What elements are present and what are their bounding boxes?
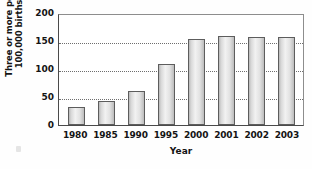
bar-2000[interactable] <box>188 39 205 125</box>
x-tick-2000: 2000 <box>181 129 211 143</box>
y-axis-title: Three or more per 100,000 births <box>0 0 29 89</box>
y-tick-0: 0 <box>28 121 54 130</box>
bar-2003[interactable] <box>278 37 295 125</box>
y-axis-title-line-1: Three or more per <box>4 0 15 77</box>
bar-1980[interactable] <box>68 107 85 125</box>
x-axis-ticks: 19801985199019952000200120022003 <box>58 129 304 143</box>
y-tick-100: 100 <box>28 65 54 74</box>
x-tick-2002: 2002 <box>242 129 272 143</box>
bar-1995[interactable] <box>158 64 175 125</box>
x-tick-1985: 1985 <box>90 129 120 143</box>
bar-slot <box>241 15 271 125</box>
scan-artifact-mark <box>16 146 21 152</box>
bar-1990[interactable] <box>128 91 145 125</box>
bar-slot <box>151 15 181 125</box>
x-tick-1980: 1980 <box>60 129 90 143</box>
bar-slot <box>211 15 241 125</box>
x-tick-2003: 2003 <box>272 129 302 143</box>
y-tick-150: 150 <box>28 37 54 46</box>
bar-slot <box>271 15 301 125</box>
y-tick-50: 50 <box>28 93 54 102</box>
bar-1985[interactable] <box>98 101 115 125</box>
bar-slot <box>181 15 211 125</box>
y-axis-ticks: 200 150 100 50 0 <box>28 0 54 169</box>
x-tick-2001: 2001 <box>211 129 241 143</box>
x-tick-1990: 1990 <box>121 129 151 143</box>
x-axis-title: Year <box>58 146 304 156</box>
bar-series <box>59 15 303 125</box>
y-axis-title-line-2: 100,000 births <box>14 0 25 77</box>
bar-chart: Three or more per 100,000 births 200 150… <box>0 0 312 169</box>
plot-area <box>58 14 304 126</box>
bar-slot <box>121 15 151 125</box>
bar-2001[interactable] <box>218 36 235 125</box>
bar-2002[interactable] <box>248 37 265 125</box>
bar-slot <box>91 15 121 125</box>
x-tick-1995: 1995 <box>151 129 181 143</box>
y-tick-200: 200 <box>28 9 54 18</box>
bar-slot <box>61 15 91 125</box>
